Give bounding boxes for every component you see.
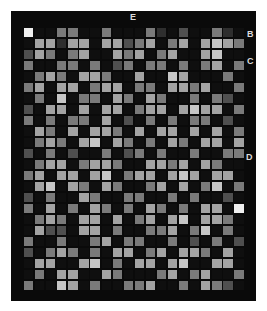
grid-cell xyxy=(179,138,188,147)
grid-cell xyxy=(179,116,188,125)
grid-cell xyxy=(212,28,221,37)
grid-cell xyxy=(124,259,133,268)
grid-cell xyxy=(168,171,177,180)
grid-cell xyxy=(157,226,166,235)
grid-cell xyxy=(190,138,199,147)
grid-cell xyxy=(90,94,99,103)
grid-cell xyxy=(212,72,221,81)
grid-cell xyxy=(24,105,33,114)
grid-cell xyxy=(124,94,133,103)
grid-cell xyxy=(35,237,44,246)
grid-cell xyxy=(113,138,122,147)
grid-cell xyxy=(168,248,177,257)
grid-cell xyxy=(234,116,243,125)
grid-cell xyxy=(190,226,199,235)
grid-cell xyxy=(190,248,199,257)
grid-cell xyxy=(124,182,133,191)
grid-cell xyxy=(212,259,221,268)
grid-cell xyxy=(79,237,88,246)
grid-cell xyxy=(223,237,232,246)
grid-cell xyxy=(201,259,210,268)
grid-cell xyxy=(201,28,210,37)
grid-cell xyxy=(57,83,66,92)
grid-cell xyxy=(135,204,144,213)
grid-cell xyxy=(35,171,44,180)
grid-cell xyxy=(90,193,99,202)
grid-cell xyxy=(190,72,199,81)
grid-cell xyxy=(90,259,99,268)
grid-cell xyxy=(157,193,166,202)
grid-cell xyxy=(102,237,111,246)
grid-cell xyxy=(79,204,88,213)
grid-cell xyxy=(168,94,177,103)
grid-cell xyxy=(68,83,77,92)
grid-cell xyxy=(90,182,99,191)
grid-cell xyxy=(146,281,155,290)
grid-cell xyxy=(35,39,44,48)
grid-cell xyxy=(35,94,44,103)
grid-cell xyxy=(35,83,44,92)
grid-cell xyxy=(201,204,210,213)
grid-cell xyxy=(24,270,33,279)
grid-cell xyxy=(79,248,88,257)
grid-cell xyxy=(124,72,133,81)
label-e: E xyxy=(130,12,136,22)
grid-cell xyxy=(234,171,243,180)
grid-cell xyxy=(113,61,122,70)
grid-cell xyxy=(35,259,44,268)
grid-cell xyxy=(24,61,33,70)
grid-cell xyxy=(135,281,144,290)
grid-cell xyxy=(79,259,88,268)
grid-cell xyxy=(223,61,232,70)
grid-cell xyxy=(90,204,99,213)
grid-cell xyxy=(102,83,111,92)
grid-cell xyxy=(35,281,44,290)
grid-cell xyxy=(135,61,144,70)
grid-cell xyxy=(190,116,199,125)
label-c: C xyxy=(247,56,254,66)
grid-cell xyxy=(46,28,55,37)
grid-cell xyxy=(57,259,66,268)
grid-cell xyxy=(79,28,88,37)
grid-cell xyxy=(223,160,232,169)
grid-cell xyxy=(201,171,210,180)
grid-cell xyxy=(234,138,243,147)
grid-cell xyxy=(135,215,144,224)
grid-cell xyxy=(90,39,99,48)
grid-cell xyxy=(46,226,55,235)
grid-cell xyxy=(79,116,88,125)
grid-cell xyxy=(190,281,199,290)
grid-cell xyxy=(201,215,210,224)
grid-cell xyxy=(168,72,177,81)
grid-cell xyxy=(234,160,243,169)
grid-cell xyxy=(57,116,66,125)
grid-cell xyxy=(124,39,133,48)
grid-cell xyxy=(90,171,99,180)
grid-cell xyxy=(146,72,155,81)
grid-cell xyxy=(79,105,88,114)
grid-cell xyxy=(234,237,243,246)
grid-cell xyxy=(79,72,88,81)
grid-cell xyxy=(90,50,99,59)
grid-cell xyxy=(190,270,199,279)
grid-cell xyxy=(35,193,44,202)
grid-cell xyxy=(223,28,232,37)
grid-cell xyxy=(234,50,243,59)
grid-cell xyxy=(212,248,221,257)
grid-cell xyxy=(179,237,188,246)
grid-cell xyxy=(212,138,221,147)
grid-cell xyxy=(135,28,144,37)
grid-cell xyxy=(124,270,133,279)
grid-cell xyxy=(135,171,144,180)
grid-cell xyxy=(157,270,166,279)
grid-cell xyxy=(57,160,66,169)
grid-cell xyxy=(234,127,243,136)
grid-cell xyxy=(223,138,232,147)
grid-cell xyxy=(135,138,144,147)
grid-cell xyxy=(57,204,66,213)
grid-cell xyxy=(168,281,177,290)
grid-cell xyxy=(46,193,55,202)
grid-cell xyxy=(190,215,199,224)
grid-cell xyxy=(146,193,155,202)
grid-cell xyxy=(146,83,155,92)
